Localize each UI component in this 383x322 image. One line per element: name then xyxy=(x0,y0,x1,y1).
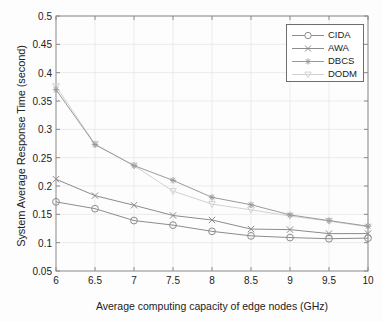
legend-marker-triangle-down-icon xyxy=(291,67,325,80)
y-tick-label: 0.05 xyxy=(14,266,52,277)
legend-label: CIDA xyxy=(328,28,351,41)
data-point-marker xyxy=(248,202,254,208)
legend-label: DBCS xyxy=(328,54,354,67)
y-tick-label: 0.45 xyxy=(14,39,52,50)
y-tick-label: 0.5 xyxy=(14,11,52,22)
data-point-marker xyxy=(326,217,332,223)
data-point-marker xyxy=(53,86,59,92)
x-tick-label: 10 xyxy=(362,275,373,286)
chart-figure: System Average Response Time (second) Av… xyxy=(0,0,383,322)
y-tick-label: 0.3 xyxy=(14,124,52,135)
data-point-marker xyxy=(209,194,215,200)
legend-item-dodm: DODM xyxy=(287,67,365,80)
x-tick-label: 7.5 xyxy=(166,275,180,286)
y-tick-label: 0.15 xyxy=(14,209,52,220)
data-point-marker xyxy=(92,141,98,147)
legend-label: DODM xyxy=(328,67,357,80)
legend-item-awa: AWA xyxy=(287,41,365,54)
chart-legend: CIDAAWADBCSDODM xyxy=(286,24,364,82)
x-tick-label: 8.5 xyxy=(244,275,258,286)
y-tick-label: 0.4 xyxy=(14,67,52,78)
legend-marker-asterisk-icon xyxy=(291,54,325,67)
x-tick-label: 8 xyxy=(209,275,215,286)
y-tick-label: 0.35 xyxy=(14,96,52,107)
x-tick-label: 6.5 xyxy=(88,275,102,286)
x-tick-label: 9 xyxy=(287,275,293,286)
x-tick-label: 6 xyxy=(53,275,59,286)
legend-item-cida: CIDA xyxy=(287,28,365,41)
data-point-marker xyxy=(170,177,176,183)
y-tick-label: 0.1 xyxy=(14,237,52,248)
data-point-marker xyxy=(131,162,137,168)
y-tick-label: 0.2 xyxy=(14,181,52,192)
legend-item-dbcs: DBCS xyxy=(287,54,365,67)
data-point-marker xyxy=(287,212,293,218)
data-point-marker xyxy=(365,223,371,229)
legend-marker-circle-icon xyxy=(291,28,325,41)
x-tick-label: 9.5 xyxy=(322,275,336,286)
y-tick-label: 0.25 xyxy=(14,152,52,163)
x-tick-label: 7 xyxy=(131,275,137,286)
legend-label: AWA xyxy=(328,41,349,54)
legend-marker-x-icon xyxy=(291,41,325,54)
